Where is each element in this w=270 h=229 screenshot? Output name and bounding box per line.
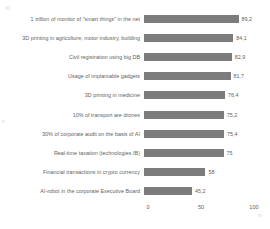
- category-label: Real-time taxation (technologies IB): [0, 150, 144, 156]
- bar-value-label: 76,4: [228, 92, 239, 98]
- plot-area: 1 trillion of monitor of "smart things" …: [0, 9, 270, 201]
- bar: [144, 15, 239, 23]
- horizontal-bar-chart: 1 trillion of monitor of "smart things" …: [0, 0, 270, 229]
- x-axis-tick-label: 0: [146, 204, 149, 211]
- bar-value-label: 75,4: [227, 131, 238, 137]
- bar: [144, 130, 224, 138]
- bar-track: 84,1: [144, 28, 270, 47]
- category-label: Financial transactions in crypto currenc…: [0, 169, 144, 175]
- bar-value-label: 58: [208, 169, 214, 175]
- bar-track: 75: [144, 143, 270, 162]
- x-axis-tick-label: 50: [198, 204, 204, 211]
- bar-row: 1 trillion of monitor of "smart things" …: [0, 9, 270, 28]
- bar-value-label: 84,1: [236, 35, 247, 41]
- bar-row: 10% of transport are drones75,2: [0, 105, 270, 124]
- bar: [144, 168, 205, 176]
- category-label: AI-robot in the corporate Executive Boar…: [0, 188, 144, 194]
- bar-value-label: 45,2: [195, 188, 206, 194]
- category-label: 1 trillion of monitor of "smart things" …: [0, 16, 144, 22]
- bar-value-label: 75: [227, 150, 233, 156]
- bar-track: 75,2: [144, 105, 270, 124]
- bar-row: Usage of implantable gadgets81,7: [0, 67, 270, 86]
- bar-value-label: 75,2: [227, 112, 238, 118]
- category-label: 10% of transport are drones: [0, 112, 144, 118]
- bar-track: 89,2: [144, 9, 270, 28]
- bar: [144, 34, 233, 42]
- bar-track: 82,9: [144, 47, 270, 66]
- bar-track: 81,7: [144, 67, 270, 86]
- bar-row: Real-time taxation (technologies IB)75: [0, 143, 270, 162]
- bar: [144, 111, 224, 119]
- bar-value-label: 82,9: [235, 54, 246, 60]
- bar-track: 76,4: [144, 86, 270, 105]
- bar-value-label: 89,2: [242, 16, 253, 22]
- bar: [144, 72, 231, 80]
- bar-row: AI-robot in the corporate Executive Boar…: [0, 182, 270, 201]
- bar-row: 3D printing in agriculture, motor indust…: [0, 28, 270, 47]
- x-axis-tick-label: 100: [249, 204, 258, 211]
- bar-row: 30% of corporate audit on the basis of A…: [0, 124, 270, 143]
- bar: [144, 149, 224, 157]
- bar: [144, 53, 232, 61]
- bar-row: 3D printing in medicine76,4: [0, 86, 270, 105]
- x-axis: 050100: [0, 201, 270, 221]
- bar-track: 45,2: [144, 182, 270, 201]
- category-label: Civil registration using big DB: [0, 54, 144, 60]
- bar: [144, 187, 192, 195]
- category-label: 30% of corporate audit on the basis of A…: [0, 131, 144, 137]
- bar-track: 75,4: [144, 124, 270, 143]
- bar-track: 58: [144, 163, 270, 182]
- bar-value-label: 81,7: [234, 73, 245, 79]
- bar-row: Financial transactions in crypto currenc…: [0, 163, 270, 182]
- category-label: 3D printing in agriculture, motor indust…: [0, 35, 144, 41]
- bar: [144, 91, 225, 99]
- bar-row: Civil registration using big DB82,9: [0, 47, 270, 66]
- category-label: 3D printing in medicine: [0, 92, 144, 98]
- category-label: Usage of implantable gadgets: [0, 73, 144, 79]
